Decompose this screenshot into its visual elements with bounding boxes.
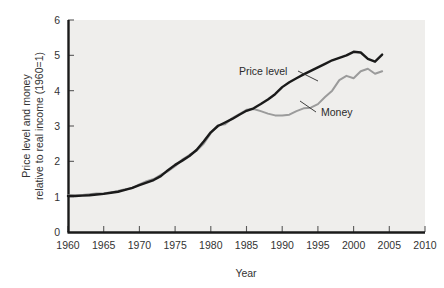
price-level-money-line-chart: 0123456 19601965197019751980198519901995…: [0, 0, 444, 288]
y-axis-title-line2: relative to real income (1960=1): [33, 52, 45, 200]
x-tick-label: 1970: [128, 239, 152, 251]
y-tick-label: 3: [54, 120, 60, 132]
x-tick-label: 1960: [56, 239, 80, 251]
x-tick-label: 1980: [199, 239, 223, 251]
y-axis-title-line1: Price level and money: [20, 74, 32, 178]
x-tick-label: 2010: [413, 239, 437, 251]
x-tick-label: 1965: [92, 239, 116, 251]
y-tick-label: 5: [54, 49, 60, 61]
x-tick-label: 1990: [271, 239, 295, 251]
plot-area-background: [68, 20, 425, 232]
y-tick-label: 2: [54, 155, 60, 167]
x-axis-title: Year: [235, 267, 257, 279]
x-tick-label: 1975: [163, 239, 187, 251]
chart-container: 0123456 19601965197019751980198519901995…: [0, 0, 444, 288]
y-tick-label: 6: [54, 14, 60, 26]
x-tick-label: 2005: [378, 239, 402, 251]
x-tick-label: 1995: [306, 239, 330, 251]
y-tick-label: 0: [54, 226, 60, 238]
annotation-label-money: Money: [321, 106, 353, 118]
annotation-label-price-level: Price level: [239, 65, 287, 77]
x-tick-label: 2000: [342, 239, 366, 251]
y-tick-label: 1: [54, 191, 60, 203]
x-tick-label: 1985: [235, 239, 259, 251]
y-tick-label: 4: [54, 85, 60, 97]
